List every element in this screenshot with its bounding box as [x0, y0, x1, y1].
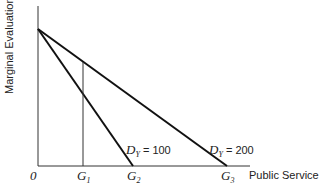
x-tick-g3: G3	[221, 168, 234, 184]
x-tick-g1: G1	[77, 168, 90, 184]
y-axis-label: Marginal Evaluation	[3, 0, 15, 94]
chart-canvas	[0, 0, 328, 192]
series-label-dy100: DY = 100	[126, 142, 171, 158]
demand-line-dy100	[38, 29, 133, 166]
origin-label: 0	[30, 168, 37, 184]
x-tick-g2: G2	[127, 168, 140, 184]
x-axis-label: Public Service	[249, 169, 319, 181]
series-label-dy200: DY = 200	[209, 142, 254, 158]
